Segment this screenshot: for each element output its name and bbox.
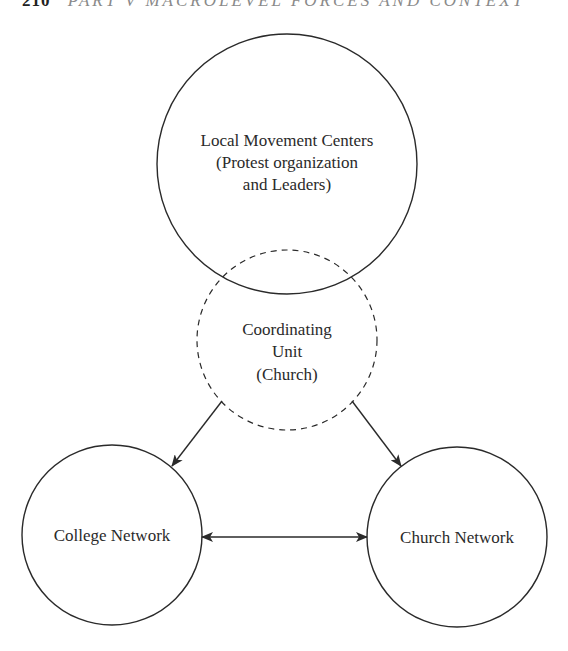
edge-coordinating-to-college [172,401,222,466]
movement-diagram: Local Movement Centers (Protest organiza… [0,0,568,651]
node-label-line: Local Movement Centers [201,131,374,150]
node-college-network: College Network [22,445,202,625]
edge-coordinating-to-church [352,401,401,466]
node-local-movement-centers: Local Movement Centers (Protest organiza… [157,34,417,294]
node-label-line: and Leaders) [243,175,331,194]
node-label-line: (Protest organization [216,153,358,172]
node-label-line: Coordinating [242,320,332,339]
node-label-line: Unit [272,342,303,361]
node-label-line: College Network [54,526,171,545]
node-church-network: Church Network [367,447,547,627]
node-label-line: Church Network [400,528,514,547]
node-label-line: (Church) [256,365,317,384]
